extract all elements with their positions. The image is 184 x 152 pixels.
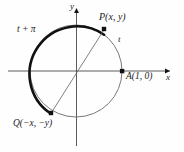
point-label-Q: Q(−x, −y) [13,119,52,129]
point-marker-Q [49,111,53,115]
arc-label-t-plus-pi: t + π [17,25,36,35]
figure-canvas [0,0,184,152]
point-label-A: A(1, 0) [126,72,152,82]
x-axis-label: x [166,73,170,82]
y-axis [74,8,79,146]
point-label-P: P(x, y) [99,12,126,22]
point-marker-P [102,27,106,31]
point-marker-A [120,69,124,73]
y-axis-label: y [70,2,74,11]
y-axis-arrow-icon [74,8,79,13]
unit-circle-figure: P(x, y) A(1, 0) Q(−x, −y) t t + π x y [0,0,184,152]
chord-PQ [52,31,104,113]
arc-label-t: t [118,35,121,44]
